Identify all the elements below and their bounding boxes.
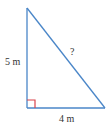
horizontal-side-label: 4 m <box>59 114 74 124</box>
vertical-side-label: 5 m <box>5 57 20 67</box>
right-triangle-diagram: 5 m 4 m ? <box>0 0 109 131</box>
hypotenuse <box>27 8 105 108</box>
hypotenuse-label: ? <box>70 47 74 57</box>
right-angle-marker <box>27 100 35 108</box>
